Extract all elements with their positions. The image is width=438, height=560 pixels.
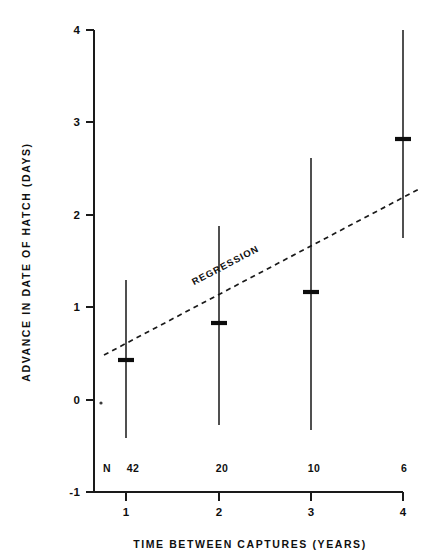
y-tick-label: 2 — [73, 209, 80, 221]
scatter-plot-canvas: 4 3 2 1 0 -1 1 2 3 4 REGRESSION — [0, 0, 438, 560]
error-bar-group — [211, 226, 227, 425]
n-row-label: N — [103, 462, 111, 474]
y-axis-title: ADVANCE IN DATE OF HATCH (DAYS) — [20, 142, 32, 381]
y-axis-tick-labels: 4 3 2 1 0 -1 — [69, 24, 80, 498]
y-tick-label: 1 — [73, 301, 80, 313]
x-axis-tick-labels: 1 2 3 4 — [123, 506, 407, 518]
error-bar-group — [395, 30, 411, 238]
n-value: 10 — [308, 462, 320, 474]
y-tick-label: 0 — [73, 394, 80, 406]
y-tick-label: 3 — [73, 116, 80, 128]
figure-panel: 4 3 2 1 0 -1 1 2 3 4 REGRESSION — [0, 0, 438, 560]
x-tick-label: 4 — [400, 506, 407, 518]
sample-size-row: N 42 20 10 6 — [103, 462, 407, 474]
x-tick-label: 3 — [308, 506, 315, 518]
x-axis-title: TIME BETWEEN CAPTURES (YEARS) — [133, 538, 367, 550]
regression-label: REGRESSION — [190, 243, 261, 287]
x-axis-ticks — [126, 492, 403, 501]
x-tick-label: 2 — [216, 506, 223, 518]
x-tick-label: 1 — [123, 506, 130, 518]
n-value: 42 — [127, 462, 139, 474]
y-axis-ticks — [86, 30, 94, 492]
error-bar-group — [118, 280, 134, 438]
regression-line — [104, 188, 421, 355]
n-value: 20 — [216, 462, 228, 474]
error-bar-group — [303, 158, 319, 430]
n-value: 6 — [401, 462, 407, 474]
y-tick-label: 4 — [73, 24, 80, 36]
y-tick-label: -1 — [69, 486, 80, 498]
ink-speck — [99, 401, 102, 404]
